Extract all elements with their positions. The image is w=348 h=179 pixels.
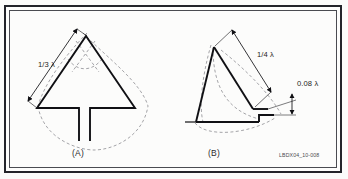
dimension-label-008-lambda: 0.08 λ <box>297 79 318 88</box>
panel-a-group <box>28 29 148 150</box>
antenna-diagram-svg <box>9 10 337 168</box>
panel-a-dashed-pattern <box>38 33 148 150</box>
figure-id-code: LBDX04_10-008 <box>279 152 319 158</box>
panel-a-triangle <box>37 36 135 108</box>
panel-b-notch-dimension <box>268 94 296 115</box>
panel-a-feed-stem <box>79 108 90 141</box>
dimension-label-one-third-lambda: 1/3 λ <box>38 60 55 69</box>
panel-label-b: (B) <box>208 148 220 158</box>
panel-label-a: (A) <box>72 148 84 158</box>
panel-b-group <box>185 30 296 132</box>
dimension-label-one-quarter-lambda: 1/4 λ <box>257 50 274 59</box>
figure-page: (A) (B) 1/3 λ 1/4 λ 0.08 λ LBDX04_10-008 <box>0 0 348 179</box>
